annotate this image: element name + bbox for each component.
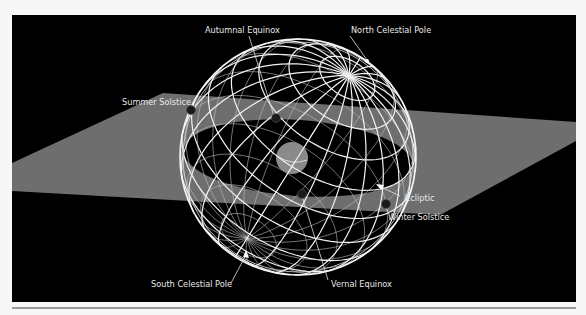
label-vernal-equinox: Vernal Equinox — [331, 279, 392, 289]
south-pole-arrowhead — [243, 250, 249, 258]
label-north-celestial-pole: North Celestial Pole — [351, 25, 431, 35]
label-winter-solstice: Winter Solstice — [388, 212, 449, 222]
label-summer-solstice: Summer Solstice — [122, 97, 191, 107]
celestial-sphere-diagram: Autumnal Equinox North Celestial Pole Su… — [0, 0, 586, 315]
vernal-equinox-point — [298, 190, 307, 199]
label-ecliptic: Ecliptic — [405, 193, 434, 203]
label-south-celestial-pole: South Celestial Pole — [151, 279, 232, 289]
north-pole-point — [365, 59, 369, 63]
autumnal-equinox-point — [272, 114, 281, 123]
winter-solstice-point — [382, 200, 391, 209]
label-autumnal-equinox: Autumnal Equinox — [205, 25, 280, 35]
